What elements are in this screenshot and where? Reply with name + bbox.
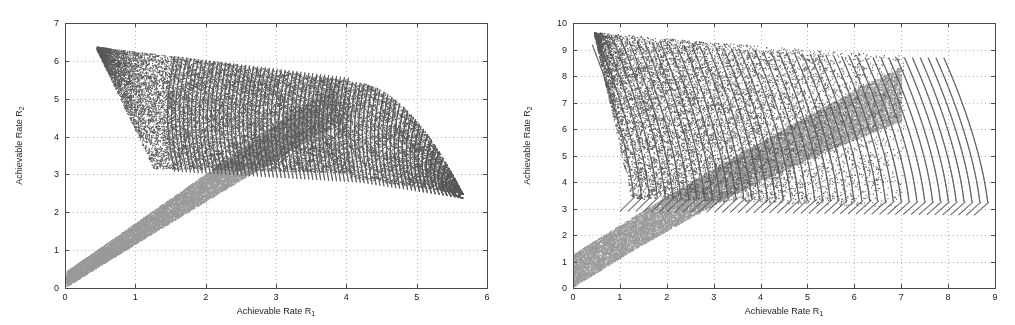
- right-plot-canvas: [508, 0, 1015, 325]
- right-plot-x-axis-title-subscript: 1: [819, 310, 823, 317]
- right-plot-x-tick-7: 7: [899, 292, 904, 302]
- left-plot-y-tick-4: 4: [0, 132, 59, 142]
- left-plot-x-tick-2: 2: [203, 292, 208, 302]
- left-plot-x-tick-1: 1: [133, 292, 138, 302]
- right-plot-y-tick-7: 7: [508, 98, 567, 108]
- left-plot-x-tick-0: 0: [62, 292, 67, 302]
- right-plot-x-axis-title-text: Achievable Rate R: [745, 306, 820, 316]
- right-plot-x-tick-3: 3: [711, 292, 716, 302]
- right-plot-x-tick-4: 4: [758, 292, 763, 302]
- left-plot-x-tick-3: 3: [273, 292, 278, 302]
- left-plot-x-axis-title-subscript: 1: [311, 310, 315, 317]
- left-plot-y-axis-title-subscript: 2: [18, 106, 25, 110]
- right-plot-y-tick-3: 3: [508, 204, 567, 214]
- right-plot-x-tick-1: 1: [617, 292, 622, 302]
- right-plot-x-axis-title: Achievable Rate R1: [573, 306, 995, 317]
- left-plot-panel: Achievable Rate R1 Achievable Rate R2 01…: [0, 0, 507, 325]
- right-plot-y-tick-8: 8: [508, 71, 567, 81]
- left-plot-y-tick-2: 2: [0, 207, 59, 217]
- left-plot-y-tick-5: 5: [0, 94, 59, 104]
- right-plot-y-tick-9: 9: [508, 45, 567, 55]
- left-plot-y-tick-7: 7: [0, 18, 59, 28]
- figure-container: Achievable Rate R1 Achievable Rate R2 01…: [0, 0, 1015, 325]
- left-plot-y-tick-6: 6: [0, 56, 59, 66]
- right-plot-y-tick-5: 5: [508, 151, 567, 161]
- right-plot-x-tick-8: 8: [946, 292, 951, 302]
- right-plot-y-tick-10: 10: [508, 18, 567, 28]
- right-plot-y-tick-6: 6: [508, 124, 567, 134]
- right-plot-x-tick-2: 2: [664, 292, 669, 302]
- right-plot-y-axis-title-text: Achievable Rate R: [522, 110, 532, 185]
- left-plot-x-tick-4: 4: [344, 292, 349, 302]
- left-plot-x-tick-5: 5: [414, 292, 419, 302]
- left-plot-x-tick-6: 6: [484, 292, 489, 302]
- right-plot-y-tick-4: 4: [508, 177, 567, 187]
- left-plot-y-tick-0: 0: [0, 283, 59, 293]
- right-plot-panel: Achievable Rate R1 Achievable Rate R2 01…: [508, 0, 1015, 325]
- right-plot-y-tick-1: 1: [508, 257, 567, 267]
- right-plot-x-tick-5: 5: [805, 292, 810, 302]
- left-plot-y-tick-1: 1: [0, 245, 59, 255]
- left-plot-x-axis-title-text: Achievable Rate R: [237, 306, 312, 316]
- right-plot-x-tick-0: 0: [570, 292, 575, 302]
- right-plot-x-tick-9: 9: [992, 292, 997, 302]
- left-plot-y-axis-title: Achievable Rate R2: [14, 13, 25, 278]
- right-plot-y-tick-0: 0: [508, 283, 567, 293]
- left-plot-y-tick-3: 3: [0, 169, 59, 179]
- right-plot-y-tick-2: 2: [508, 230, 567, 240]
- left-plot-x-axis-title: Achievable Rate R1: [65, 306, 487, 317]
- right-plot-x-tick-6: 6: [852, 292, 857, 302]
- left-plot-canvas: [0, 0, 507, 325]
